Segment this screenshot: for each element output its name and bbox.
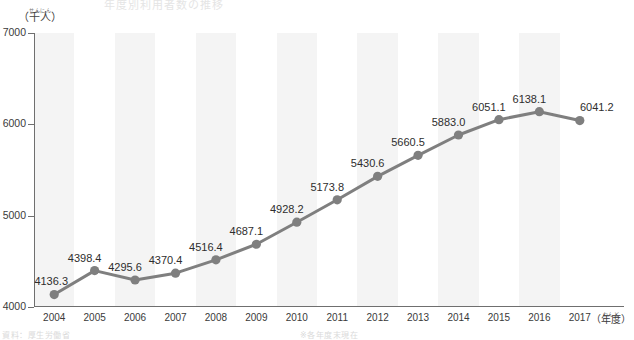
series-marker xyxy=(292,218,301,227)
y-axis-tick-label: 5000 xyxy=(0,209,26,221)
series-marker xyxy=(413,151,422,160)
y-axis-tick xyxy=(28,307,34,308)
data-point-label: 5660.5 xyxy=(383,136,433,148)
y-axis-unit-label: せんにん （千人） xyxy=(18,8,62,24)
series-marker xyxy=(333,195,342,204)
x-axis-tick-label: 2011 xyxy=(315,312,359,323)
series-marker xyxy=(454,130,463,139)
data-point-label: 5883.0 xyxy=(424,116,474,128)
data-point-label: 5173.8 xyxy=(302,181,352,193)
data-point-label: 6138.1 xyxy=(504,93,554,105)
y-axis-tick-label: 6000 xyxy=(0,117,26,129)
x-axis-tick-label: 2008 xyxy=(194,312,238,323)
series-marker xyxy=(50,290,59,299)
data-point-label: 4928.2 xyxy=(262,203,312,215)
x-axis-tick-label: 2009 xyxy=(234,312,278,323)
x-axis-tick-label: 2016 xyxy=(517,312,561,323)
x-axis-tick-label: 2014 xyxy=(437,312,481,323)
data-point-label: 6041.2 xyxy=(572,101,622,113)
data-point-label: 4136.3 xyxy=(26,275,76,287)
series-marker xyxy=(252,240,261,249)
x-axis-unit-text: （年度） xyxy=(591,314,631,325)
x-axis-tick-label: 2013 xyxy=(396,312,440,323)
y-axis-unit-text: （千人） xyxy=(18,11,62,23)
data-point-label: 5430.6 xyxy=(343,157,393,169)
x-axis-tick-label: 2004 xyxy=(32,312,76,323)
data-point-label: 4516.4 xyxy=(181,241,231,253)
y-axis-tick-label: 4000 xyxy=(0,300,26,312)
x-axis-tick-label: 2007 xyxy=(154,312,198,323)
x-axis-tick-label: 2010 xyxy=(275,312,319,323)
series-marker xyxy=(494,115,503,124)
series-marker xyxy=(211,255,220,264)
series-marker xyxy=(171,269,180,278)
footnote-fragment-2: ※各年度末現在 xyxy=(300,329,358,340)
x-axis-tick-label: 2006 xyxy=(113,312,157,323)
x-axis-tick-label: 2012 xyxy=(356,312,400,323)
data-point-label: 4687.1 xyxy=(221,225,271,237)
data-point-label: 4370.4 xyxy=(141,254,191,266)
x-axis-tick-label: 2015 xyxy=(477,312,521,323)
series-marker xyxy=(535,107,544,116)
series-marker xyxy=(575,116,584,125)
series-marker xyxy=(373,172,382,181)
x-axis-unit-label: ねんど （年度） xyxy=(591,312,631,326)
series-marker xyxy=(130,275,139,284)
y-axis-tick-label: 7000 xyxy=(0,26,26,38)
chart-title-fragment: 年度別利用者数の推移 xyxy=(104,0,224,12)
series-marker xyxy=(90,266,99,275)
footnote-fragment: 資料：厚生労働省 xyxy=(2,329,70,340)
x-axis-tick-label: 2005 xyxy=(73,312,117,323)
